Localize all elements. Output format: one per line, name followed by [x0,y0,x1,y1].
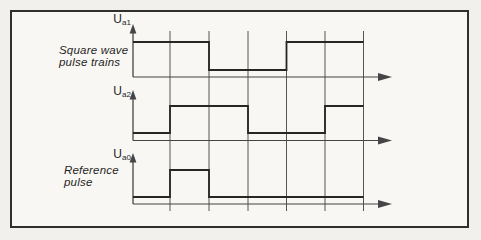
ua2-x-axis-arrowhead-icon [378,137,392,145]
reference-pulse-caption: Reference pulse [64,165,119,188]
waveform-figure: Ua1 Ua2 Ua0 Square wave pulse trains Ref… [0,0,481,240]
reference-pulse-caption-line2: pulse [64,177,119,189]
reference-pulse-caption-line1: Reference [64,165,119,177]
ua2-axis-label-subscript: a2 [122,90,131,99]
ua0-axis-label-letter: U [113,147,122,161]
waveform-diagram [0,0,481,240]
ua1-x-axis-arrowhead-icon [378,73,392,81]
ua1-axis-label-subscript: a1 [122,18,131,27]
ua1-axis-label-letter: U [113,12,122,26]
square-wave-caption-line1: Square wave [59,45,128,57]
ua0-axis-label-subscript: a0 [122,153,131,162]
ua0-axis-label: Ua0 [90,147,131,162]
ua2-axis-label: Ua2 [90,84,131,99]
square-wave-caption: Square wave pulse trains [59,45,128,68]
ua0-x-axis-arrowhead-icon [378,200,392,208]
ua2-waveform [133,106,364,133]
ua2-axis-label-letter: U [113,84,122,98]
ua1-axis-label: Ua1 [90,12,131,27]
square-wave-caption-line2: pulse trains [59,57,128,69]
